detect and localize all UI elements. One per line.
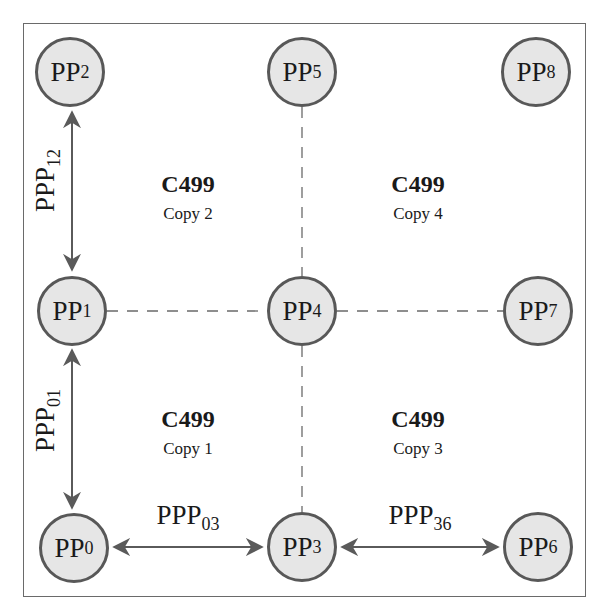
node-label: PP xyxy=(516,57,546,88)
region-subtitle: Copy 3 xyxy=(338,437,498,461)
region-copy-4: C499 Copy 4 xyxy=(338,170,498,226)
node-label: PP xyxy=(52,296,82,327)
node-pp6: PP6 xyxy=(503,512,573,582)
edge-label-ppp03: PPP03 xyxy=(157,500,220,531)
node-label: PP xyxy=(282,57,312,88)
node-label: PP xyxy=(282,532,312,563)
node-label: PP xyxy=(282,296,312,327)
node-pp4: PP4 xyxy=(267,276,337,346)
region-title: C499 xyxy=(338,405,498,433)
region-subtitle: Copy 4 xyxy=(338,202,498,226)
region-copy-2: C499 Copy 2 xyxy=(108,170,268,226)
node-label: PP xyxy=(518,296,548,327)
edge-label-ppp01: PPP01 xyxy=(30,388,61,451)
region-subtitle: Copy 2 xyxy=(108,202,268,226)
node-pp7: PP7 xyxy=(503,276,573,346)
node-label: PP xyxy=(518,532,548,563)
node-label: PP xyxy=(50,57,80,88)
region-copy-3: C499 Copy 3 xyxy=(338,405,498,461)
region-title: C499 xyxy=(338,170,498,198)
edge-label-ppp36: PPP36 xyxy=(389,500,452,531)
region-copy-1: C499 Copy 1 xyxy=(108,405,268,461)
node-pp0: PP0 xyxy=(39,513,109,583)
node-pp1: PP1 xyxy=(37,276,107,346)
node-pp5: PP5 xyxy=(267,37,337,107)
edge-label-ppp12: PPP12 xyxy=(30,148,61,211)
node-pp2: PP2 xyxy=(35,37,105,107)
node-label: PP xyxy=(54,533,84,564)
node-pp3: PP3 xyxy=(267,512,337,582)
node-pp8: PP8 xyxy=(501,37,571,107)
region-title: C499 xyxy=(108,170,268,198)
region-title: C499 xyxy=(108,405,268,433)
region-subtitle: Copy 1 xyxy=(108,437,268,461)
